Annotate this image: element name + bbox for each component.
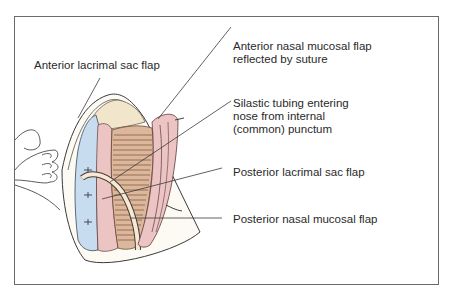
label-anterior-lacrimal-sac-flap: Anterior lacrimal sac flap [34, 59, 160, 72]
skin-edge-illustration [15, 130, 60, 210]
label-anterior-nasal-mucosal-flap: Anterior nasal mucosal flap reflected by… [233, 40, 372, 66]
label-posterior-lacrimal-sac-flap: Posterior lacrimal sac flap [233, 166, 365, 179]
label-posterior-nasal-mucosal-flap: Posterior nasal mucosal flap [233, 213, 377, 226]
label-silastic-tubing: Silastic tubing entering nose from inter… [233, 97, 349, 136]
dacryocystorhinostomy-illustration [0, 0, 453, 296]
